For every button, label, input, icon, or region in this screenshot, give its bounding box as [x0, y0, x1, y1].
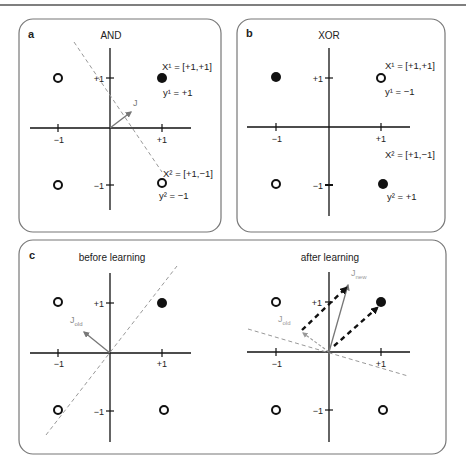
panel-c: c before learning −1 +1 +1 −1 Jold after… [19, 240, 446, 454]
panel-b-letter: b [246, 27, 253, 39]
tick-label: +1 [312, 298, 322, 308]
open-point [377, 74, 385, 82]
y2-annotation: y² = −1 [159, 190, 189, 201]
tick-label: −1 [54, 135, 64, 145]
x2-annotation: X² = [+1,−1] [385, 149, 435, 160]
panel-c-frame [19, 240, 446, 454]
tick-label: −1 [272, 359, 282, 369]
subpanel-title: after learning [301, 252, 359, 263]
tick-label: +1 [94, 299, 104, 309]
open-point [272, 298, 280, 306]
panel-a-frame [19, 19, 221, 232]
tick-label: −1 [94, 407, 104, 417]
tick-label: −1 [272, 134, 282, 144]
tick-label: +1 [313, 74, 323, 84]
tick-label: −1 [313, 181, 323, 191]
filled-point [376, 297, 386, 307]
tick-label: +1 [376, 134, 386, 144]
panel-a-title: AND [100, 30, 121, 41]
tick-label: −1 [54, 359, 64, 369]
y1-annotation: y¹ = +1 [163, 87, 193, 98]
x1-annotation: X¹ = [+1,+1] [162, 61, 212, 72]
x2-annotation: X² = [+1,−1] [163, 168, 213, 179]
weight-vector-label: J [133, 98, 138, 108]
panel-b: b XOR −1 +1 +1 −1 X¹ = [+1,+1] y¹ = −1 X… [237, 19, 445, 232]
panel-a: a AND −1 +1 +1 −1 J X¹ = [+1,+1] y¹ = +1… [19, 19, 221, 232]
filled-point [271, 72, 281, 82]
open-point [272, 406, 280, 414]
open-point [272, 180, 280, 188]
open-point [160, 406, 168, 414]
tick-label: −1 [313, 406, 323, 416]
y2-annotation: y² = +1 [387, 191, 417, 202]
open-point [54, 74, 62, 82]
tick-label: +1 [157, 359, 167, 369]
open-point [54, 181, 62, 189]
x1-annotation: X¹ = [+1,+1] [385, 60, 435, 71]
subpanel-title: before learning [79, 252, 146, 263]
open-point [379, 406, 387, 414]
open-point [158, 179, 166, 187]
panel-a-letter: a [28, 28, 35, 40]
y1-annotation: y¹ = −1 [385, 86, 415, 97]
figure-canvas: a AND −1 +1 +1 −1 J X¹ = [+1,+1] y¹ = +1… [0, 0, 466, 467]
tick-label: −1 [94, 181, 104, 191]
panel-c-letter: c [29, 249, 35, 261]
open-point [54, 298, 62, 306]
panel-b-title: XOR [318, 30, 340, 41]
open-point [54, 406, 62, 414]
tick-label: +1 [157, 135, 167, 145]
filled-point [378, 179, 388, 189]
filled-point [157, 298, 167, 308]
filled-point [157, 73, 167, 83]
